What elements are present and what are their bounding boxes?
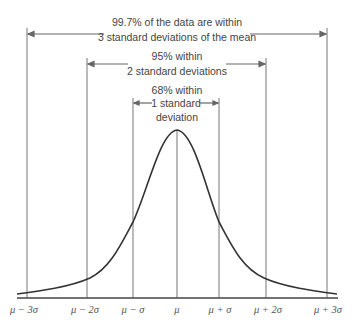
- three-sigma-label-line2: 3 standard deviations of the mean: [98, 31, 256, 43]
- axis-label-minus-3-sigma: μ − 3σ: [9, 304, 39, 315]
- two-sigma-label-line2: 2 standard deviations: [127, 65, 227, 77]
- one-sigma-label-line1: 68% within: [152, 84, 203, 96]
- two-sigma-label-line1: 95% within: [152, 50, 203, 62]
- axis-label-minus-2-sigma: μ − 2σ: [70, 304, 100, 315]
- axis-label-plus-1-sigma: μ + σ: [208, 304, 233, 315]
- three-sigma-label-line1: 99.7% of the data are within: [112, 16, 242, 28]
- axis-label-mean: μ: [173, 304, 179, 315]
- axis-label-minus-1-sigma: μ − σ: [121, 304, 146, 315]
- axis-labels: μ − 3σ μ − 2σ μ − σ μ μ + σ μ + 2σ μ + 3…: [9, 304, 343, 315]
- one-sigma-label-line3: deviation: [156, 111, 198, 123]
- normal-distribution-diagram: 99.7% of the data are within 3 standard …: [0, 0, 356, 331]
- axis-label-plus-2-sigma: μ + 2σ: [253, 304, 283, 315]
- one-sigma-label-line2: 1 standard: [151, 97, 201, 109]
- axis-label-plus-3-sigma: μ + 3σ: [313, 304, 343, 315]
